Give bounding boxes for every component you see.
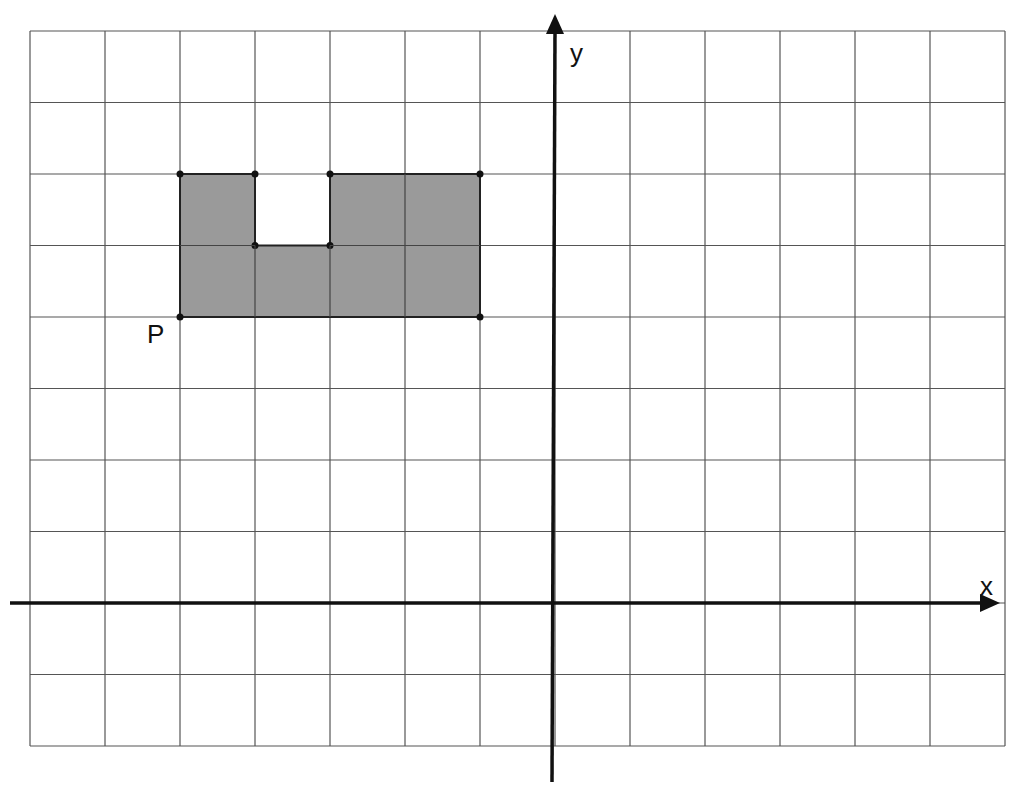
y-axis-arrow-icon	[546, 14, 564, 34]
axes	[10, 14, 1000, 782]
vertex-dot	[252, 171, 259, 178]
x-axis-label: x	[980, 571, 993, 601]
grid-lines	[30, 31, 1005, 746]
coordinate-grid-diagram: x y P	[0, 0, 1015, 794]
vertex-dot	[477, 171, 484, 178]
vertex-dot	[477, 314, 484, 321]
vertex-dot	[177, 314, 184, 321]
vertex-dot	[327, 171, 334, 178]
vertex-dot	[177, 171, 184, 178]
point-p-label: P	[147, 319, 164, 349]
y-axis-label: y	[570, 38, 583, 68]
